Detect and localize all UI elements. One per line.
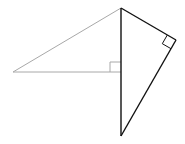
- lower-right-side: [121, 40, 176, 136]
- upper-right-side: [121, 8, 176, 40]
- right-angle-mark-foot: [110, 62, 121, 72]
- left-hypotenuse: [13, 8, 121, 72]
- geometry-diagram: [0, 0, 185, 144]
